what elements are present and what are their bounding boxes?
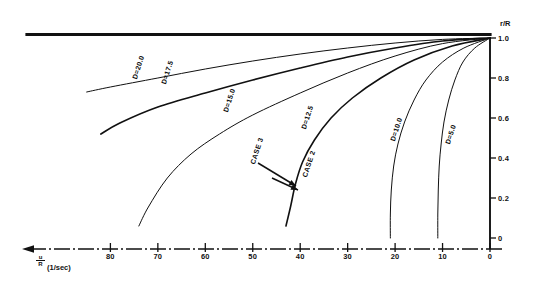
x-axis-ticks <box>110 243 490 252</box>
x-tick-label: 0 <box>488 252 492 261</box>
annotation-arrows <box>258 163 298 190</box>
y-tick-label: 0.4 <box>498 154 509 163</box>
x-tick-label: 10 <box>438 252 447 261</box>
x-axis-title-units: (1/sec) <box>47 263 71 272</box>
x-axis-title-denominator: R <box>36 261 45 267</box>
y-tick-label: 0.8 <box>498 74 509 83</box>
data-curves <box>87 38 490 238</box>
x-tick-label: 80 <box>106 252 115 261</box>
curve-d-12-5 <box>286 38 490 226</box>
x-tick-label: 60 <box>201 252 210 261</box>
x-tick-label: 50 <box>248 252 257 261</box>
y-tick-label: 0.6 <box>498 114 509 123</box>
x-tick-label: 40 <box>296 252 305 261</box>
x-tick-label: 30 <box>343 252 352 261</box>
y-tick-label: 1.0 <box>498 34 509 43</box>
y-tick-label: 0 <box>498 234 502 243</box>
x-axis-title-fraction: u R <box>36 254 45 267</box>
x-tick-label: 70 <box>153 252 162 261</box>
x-axis-arrow-icon <box>22 245 34 253</box>
figure-canvas: r/R 1.00.80.60.40.20 80706050403020100 u… <box>0 0 533 307</box>
y-axis-title: r/R <box>500 19 510 28</box>
plot-area <box>0 0 533 307</box>
x-tick-label: 20 <box>391 252 400 261</box>
curve-d-10-0 <box>390 38 490 238</box>
y-tick-label: 0.2 <box>498 194 509 203</box>
